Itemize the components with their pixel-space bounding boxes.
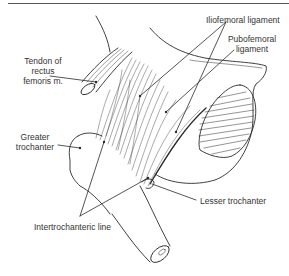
label-pubofemoral-line1: Pubofemoral bbox=[222, 34, 282, 44]
label-lesser-trochanter: Lesser trochanter bbox=[200, 196, 266, 206]
label-tendon-line2: rectus bbox=[18, 66, 68, 76]
label-greater-line2: trochanter bbox=[12, 142, 58, 152]
label-tendon-line1: Tendon of bbox=[18, 56, 68, 66]
label-greater-trochanter: Greater trochanter bbox=[12, 132, 58, 152]
label-tendon-line3: femoris m. bbox=[18, 76, 68, 86]
label-greater-line1: Greater bbox=[12, 132, 58, 142]
label-pubofemoral-line2: ligament bbox=[222, 44, 282, 54]
label-pubofemoral-ligament: Pubofemoral ligament bbox=[222, 34, 282, 54]
label-iliofemoral-ligament: Iliofemoral ligament bbox=[206, 15, 280, 25]
label-intertrochanteric-line: Intertrochanteric line bbox=[34, 222, 111, 232]
label-rectus-femoris-tendon: Tendon of rectus femoris m. bbox=[18, 56, 68, 86]
